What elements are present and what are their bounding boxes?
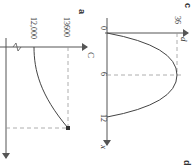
panel-c: c d x 0 6 12 36 <box>99 3 193 149</box>
tick-x-6: 6 <box>99 72 108 76</box>
curve-a <box>34 47 68 128</box>
d-axis-label: d <box>179 37 189 42</box>
data-point-marker <box>66 126 70 130</box>
c-axis-label: C <box>86 52 96 58</box>
tick-d-36: 36 <box>173 16 182 24</box>
panel-a-label: a <box>77 9 87 15</box>
tick-x-0: 0 <box>99 26 108 30</box>
panel-a: a C 12,000 13600 <box>0 9 96 158</box>
figure-canvas: a C 12,000 13600 c d x 0 6 12 3 <box>0 0 194 168</box>
panel-c-label: c <box>183 3 193 8</box>
x-axis-label-c: x <box>99 144 109 149</box>
panel-d-label: d <box>182 160 192 166</box>
tick-13600: 13600 <box>62 17 71 37</box>
tick-x-12: 12 <box>99 114 108 122</box>
tick-12000: 12,000 <box>29 17 38 39</box>
